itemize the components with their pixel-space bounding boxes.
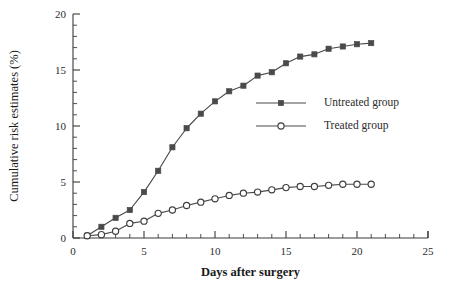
legend-label: Untreated group (324, 96, 399, 109)
legend: Untreated groupTreated group (256, 96, 399, 132)
data-point-marker (113, 228, 119, 234)
data-point-marker (283, 61, 288, 66)
x-tick-label: 5 (141, 245, 147, 257)
data-point-marker (340, 44, 345, 49)
y-tick-label: 15 (55, 64, 67, 76)
data-point-marker (340, 181, 346, 187)
x-tick-label: 25 (423, 245, 435, 257)
data-point-marker (212, 196, 218, 202)
y-tick-label: 5 (61, 176, 67, 188)
legend-label: Treated group (324, 119, 389, 132)
data-point-marker (298, 54, 303, 59)
legend-item[interactable]: Treated group (256, 119, 389, 132)
data-point-marker (255, 189, 261, 195)
data-point-marker (368, 181, 374, 187)
data-point-marker (354, 181, 360, 187)
data-point-marker (283, 185, 289, 191)
data-point-marker (311, 183, 317, 189)
x-axis-title: Days after surgery (201, 265, 301, 279)
data-point-marker (184, 126, 189, 131)
legend-marker (278, 100, 283, 105)
data-point-marker (141, 218, 147, 224)
y-tick-label: 10 (55, 120, 67, 132)
legend-marker (278, 123, 284, 129)
cumulative-risk-chart: 051015202505101520Days after surgeryCumu… (0, 0, 466, 288)
data-point-marker (354, 42, 359, 47)
data-point-marker (326, 182, 332, 188)
data-point-marker (212, 99, 217, 104)
data-point-marker (127, 220, 133, 226)
x-tick-label: 0 (70, 245, 76, 257)
data-point-marker (269, 70, 274, 75)
data-point-marker (141, 189, 146, 194)
data-point-marker (155, 210, 161, 216)
x-tick-group: 0510152025 (70, 231, 434, 257)
data-point-marker (227, 89, 232, 94)
data-point-marker (198, 111, 203, 116)
data-point-marker (156, 168, 161, 173)
y-tick-label: 0 (61, 232, 67, 244)
data-point-marker (369, 41, 374, 46)
data-point-marker (326, 46, 331, 51)
data-point-marker (127, 207, 132, 212)
x-tick-label: 15 (281, 245, 293, 257)
data-point-marker (297, 183, 303, 189)
data-point-marker (170, 145, 175, 150)
figure-container: 051015202505101520Days after surgeryCumu… (0, 0, 466, 288)
data-point-marker (169, 207, 175, 213)
x-tick-label: 20 (352, 245, 364, 257)
data-point-marker (255, 73, 260, 78)
data-point-marker (99, 224, 104, 229)
data-point-marker (184, 202, 190, 208)
series-line (87, 43, 371, 236)
data-point-marker (240, 190, 246, 196)
data-point-marker (269, 187, 275, 193)
x-tick-label: 10 (210, 245, 222, 257)
y-axis-title: Cumulative risk estimates (%) (7, 50, 21, 202)
series-1 (85, 41, 374, 239)
y-tick-label: 20 (55, 8, 67, 20)
data-point-marker (241, 83, 246, 88)
y-tick-group: 05101520 (55, 8, 80, 244)
data-point-marker (113, 215, 118, 220)
data-point-marker (98, 232, 104, 238)
legend-item[interactable]: Untreated group (256, 96, 399, 109)
data-point-marker (84, 233, 90, 239)
data-point-marker (226, 192, 232, 198)
data-point-marker (198, 199, 204, 205)
data-point-marker (312, 52, 317, 57)
